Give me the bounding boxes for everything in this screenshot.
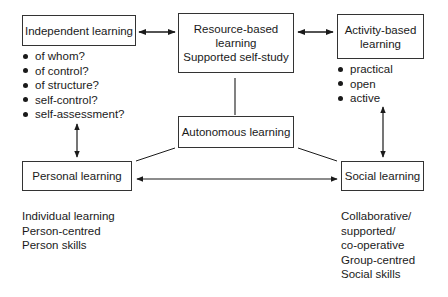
node-activity-based-learning: Activity-based learning (337, 14, 424, 59)
node-label-line: learning (216, 36, 257, 50)
node-resource-based-learning: Resource-based learning Supported self-s… (178, 13, 294, 73)
note-line: Individual learning (22, 209, 115, 224)
node-social-learning: Social learning (341, 161, 424, 191)
node-label-line: Resource-based (194, 22, 278, 36)
node-label: Independent learning (25, 24, 133, 38)
bullet-item: practical (337, 62, 393, 77)
node-label-line: learning (360, 37, 401, 51)
independent-bullet-list: of whom? of control? of structure? self-… (22, 49, 124, 122)
bullet-item: active (337, 91, 393, 106)
node-label-line: Supported self-study (183, 50, 288, 64)
node-independent-learning: Independent learning (22, 15, 136, 46)
note-line: Social skills (341, 267, 415, 282)
bullet-item: of control? (22, 64, 124, 79)
node-label: Autonomous learning (182, 125, 291, 139)
note-line: supported/ (341, 224, 415, 239)
note-line: co-operative (341, 238, 415, 253)
bullet-item: of whom? (22, 49, 124, 64)
node-label: Social learning (345, 169, 420, 183)
line-autonomous-personal (136, 148, 175, 161)
note-line: Person skills (22, 238, 115, 253)
note-line: Group-centred (341, 253, 415, 268)
social-notes: Collaborative/ supported/ co-operative G… (341, 209, 415, 282)
note-line: Person-centred (22, 224, 115, 239)
node-label-line: Activity-based (345, 23, 417, 37)
node-personal-learning: Personal learning (22, 161, 132, 191)
activity-bullet-list: practical open active (337, 62, 393, 106)
node-label: Personal learning (32, 169, 122, 183)
bullet-item: self-assessment? (22, 107, 124, 122)
bullet-item: self-control? (22, 93, 124, 108)
personal-notes: Individual learning Person-centred Perso… (22, 209, 115, 253)
line-autonomous-social (298, 148, 337, 161)
node-autonomous-learning: Autonomous learning (178, 116, 294, 148)
note-line: Collaborative/ (341, 209, 415, 224)
bullet-item: of structure? (22, 78, 124, 93)
bullet-item: open (337, 77, 393, 92)
